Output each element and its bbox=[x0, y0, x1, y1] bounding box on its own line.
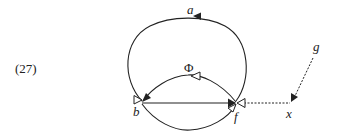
label-x: x bbox=[285, 106, 292, 121]
label-phi: Φ bbox=[184, 60, 194, 75]
arrow-x-filled-icon bbox=[291, 93, 298, 102]
diagram-canvas: (27) a Φ b f x g bbox=[0, 0, 337, 140]
label-g: g bbox=[313, 39, 320, 54]
arrow-x-f-hollow-icon bbox=[237, 99, 245, 108]
line-g-x bbox=[295, 58, 313, 96]
label-f: f bbox=[234, 109, 240, 124]
arc-phi bbox=[143, 75, 236, 102]
label-b: b bbox=[133, 104, 140, 119]
label-a: a bbox=[187, 2, 194, 17]
example-number: (27) bbox=[15, 61, 37, 76]
arc-lower bbox=[142, 104, 235, 130]
arrow-phi-b-filled-icon bbox=[142, 93, 151, 102]
